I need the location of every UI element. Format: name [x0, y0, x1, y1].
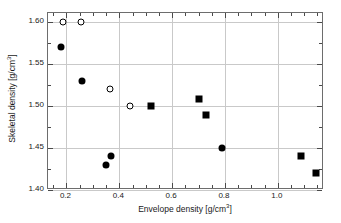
x-axis-minor-tick [133, 13, 134, 16]
x-axis-minor-tick [106, 185, 107, 188]
x-axis-minor-tick [291, 185, 292, 188]
x-axis-minor-tick [80, 185, 81, 188]
x-axis-major-tick [278, 13, 279, 18]
gridline-vertical [278, 13, 279, 188]
y-axis-minor-tick [48, 127, 51, 128]
y-axis-minor-tick [48, 85, 51, 86]
x-axis-minor-tick [106, 13, 107, 16]
x-axis-tick-label: 0.4 [113, 191, 124, 201]
x-axis-minor-tick [53, 13, 54, 16]
gridline-vertical [225, 13, 226, 188]
x-axis-tick-label: 1.0 [271, 191, 282, 201]
data-point-filled-circle [78, 77, 85, 84]
data-point-filled-circle [102, 161, 109, 168]
x-axis-minor-tick [304, 185, 305, 188]
x-axis-minor-tick [212, 185, 213, 188]
data-point-filled-circle [108, 153, 115, 160]
x-axis-minor-tick [80, 13, 81, 16]
x-axis-minor-tick [199, 13, 200, 16]
x-axis-minor-tick [291, 13, 292, 16]
x-axis-minor-tick [93, 185, 94, 188]
data-point-open-circle [126, 103, 133, 110]
data-point-filled-square [148, 103, 155, 110]
x-axis-minor-tick [185, 13, 186, 16]
y-axis-minor-tick [48, 43, 51, 44]
x-axis-minor-tick [317, 185, 318, 188]
y-axis-major-tick [317, 106, 322, 107]
y-axis-title-exponent: 3 [6, 57, 12, 60]
y-axis-major-tick [48, 64, 53, 65]
y-axis-major-tick [317, 22, 322, 23]
y-axis-title-text: Skeletal density [g/cm [7, 60, 17, 143]
gridline-vertical [172, 13, 173, 188]
x-axis-major-tick [278, 183, 279, 188]
x-axis-minor-tick [265, 13, 266, 16]
x-axis-minor-tick [238, 185, 239, 188]
x-axis-tick-label: 0.6 [166, 191, 177, 201]
x-axis-minor-tick [159, 185, 160, 188]
gridline-vertical [66, 13, 67, 188]
y-axis-major-tick [317, 148, 322, 149]
gridline-horizontal [48, 64, 322, 65]
x-axis-minor-tick [251, 185, 252, 188]
x-axis-minor-tick [251, 13, 252, 16]
x-axis-tick-label: 0.2 [60, 191, 71, 201]
x-axis-major-tick [225, 183, 226, 188]
gridline-vertical [119, 13, 120, 188]
data-point-filled-circle [58, 44, 65, 51]
x-axis-minor-tick [199, 185, 200, 188]
x-axis-major-tick [119, 183, 120, 188]
data-point-filled-square [313, 170, 320, 177]
data-point-filled-square [202, 111, 209, 118]
x-axis-minor-tick [159, 13, 160, 16]
data-point-filled-square [298, 153, 305, 160]
x-axis-minor-tick [304, 13, 305, 16]
x-axis-minor-tick [146, 13, 147, 16]
x-axis-minor-tick [317, 13, 318, 16]
y-axis-major-tick [317, 64, 322, 65]
x-axis-major-tick [66, 183, 67, 188]
x-axis-major-tick [172, 183, 173, 188]
x-axis-major-tick [66, 13, 67, 18]
x-axis-minor-tick [265, 185, 266, 188]
x-axis-major-tick [119, 13, 120, 18]
x-axis-title: Envelope density [g/cm3] [47, 204, 323, 215]
y-axis-minor-tick [319, 85, 322, 86]
x-axis-minor-tick [185, 185, 186, 188]
x-axis-title-text: Envelope density [g/cm [138, 204, 226, 214]
x-axis-minor-tick [212, 13, 213, 16]
x-axis-minor-tick [146, 185, 147, 188]
data-point-filled-square [196, 96, 203, 103]
x-axis-tick-labels: 0.20.40.60.81.0 [47, 191, 323, 203]
x-axis-minor-tick [53, 185, 54, 188]
y-axis-title: Skeletal density [g/cm3] [7, 10, 18, 187]
y-axis-major-tick [48, 106, 53, 107]
y-axis-major-tick [48, 148, 53, 149]
data-point-filled-circle [219, 145, 226, 152]
gridline-horizontal [48, 148, 322, 149]
data-point-open-circle [59, 19, 66, 26]
y-axis-minor-tick [319, 127, 322, 128]
y-axis-minor-tick [48, 169, 51, 170]
gridline-horizontal [48, 106, 322, 107]
x-axis-major-tick [172, 13, 173, 18]
y-axis-title-tail: ] [7, 54, 17, 56]
y-axis-minor-tick [319, 43, 322, 44]
x-axis-title-tail: ] [229, 204, 231, 214]
y-axis-major-tick [48, 22, 53, 23]
plot-area [47, 12, 323, 189]
data-point-open-circle [107, 86, 114, 93]
gridline-horizontal [48, 22, 322, 23]
x-axis-tick-label: 0.8 [218, 191, 229, 201]
x-axis-minor-tick [93, 13, 94, 16]
scatter-chart-figure: 0.20.40.60.81.0 1.401.451.501.551.60 Env… [0, 0, 341, 223]
x-axis-major-tick [225, 13, 226, 18]
x-axis-minor-tick [238, 13, 239, 16]
data-point-open-circle [78, 19, 85, 26]
x-axis-minor-tick [133, 185, 134, 188]
